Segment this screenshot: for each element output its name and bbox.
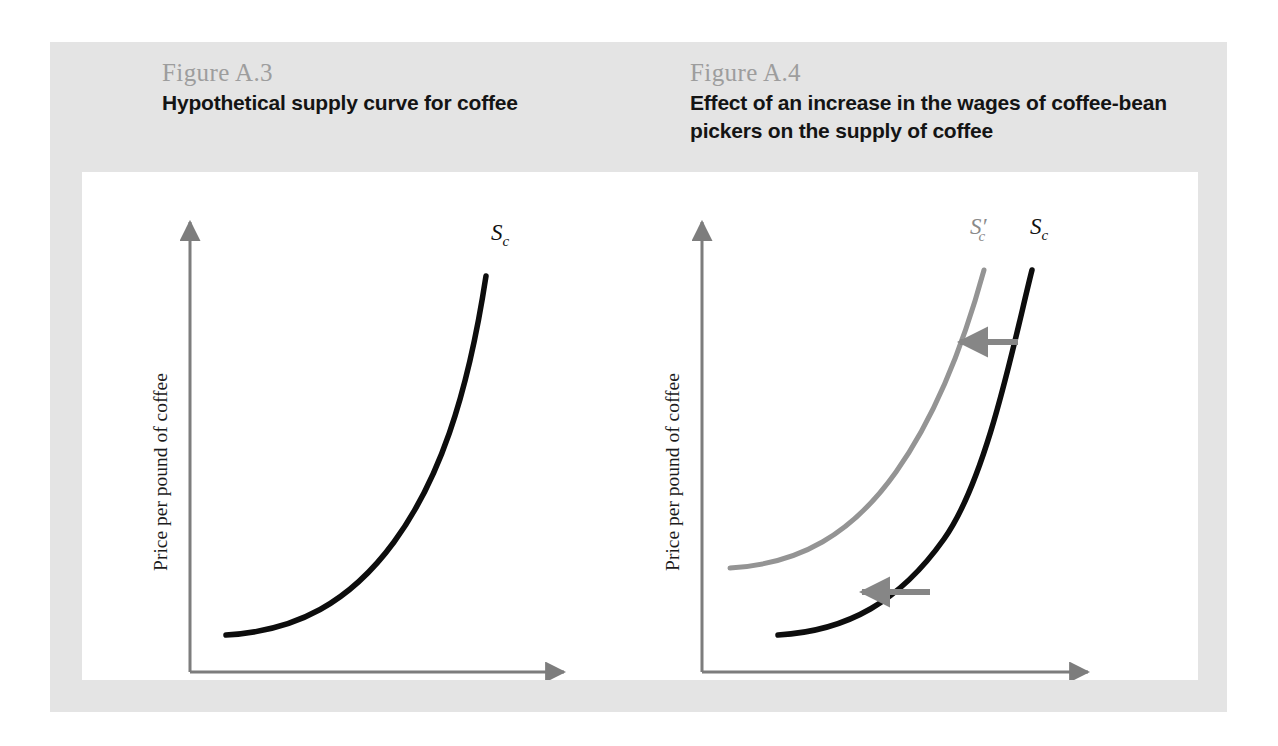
figure-headings: Figure A.3 Hypothetical supply curve for… xyxy=(50,42,1227,172)
chart-figure-a3: Sc Price per pound of coffee Pounds of c… xyxy=(82,172,640,680)
figure-page: Figure A.3 Hypothetical supply curve for… xyxy=(0,0,1278,746)
figure-title-a4: Effect of an increase in the wages of co… xyxy=(690,89,1210,144)
figure-number-a3: Figure A.3 xyxy=(162,60,582,86)
figure-number-a4: Figure A.4 xyxy=(690,60,1210,86)
curve-label-sc: Sc xyxy=(491,220,510,249)
supply-curve-sc xyxy=(226,276,486,635)
y-axis-label: Price per pound of coffee xyxy=(150,373,171,571)
plot-card: Sc Price per pound of coffee Pounds of c… xyxy=(82,172,1198,680)
figure-heading-a3: Figure A.3 Hypothetical supply curve for… xyxy=(162,60,582,117)
figure-heading-a4: Figure A.4 Effect of an increase in the … xyxy=(690,60,1210,144)
supply-curve-sc-prime xyxy=(730,270,984,568)
chart-a4-svg: S′c Sc Price per pound of coffee Pounds … xyxy=(640,172,1198,680)
y-axis-label: Price per pound of coffee xyxy=(662,373,683,571)
curve-label-sc-a4: Sc xyxy=(1030,214,1049,243)
supply-curve-sc xyxy=(778,270,1032,635)
figure-panel: Figure A.3 Hypothetical supply curve for… xyxy=(50,42,1227,712)
chart-a3-svg: Sc Price per pound of coffee Pounds of c… xyxy=(82,172,640,680)
curve-label-sc-prime: S′c xyxy=(970,214,988,244)
figure-title-a3: Hypothetical supply curve for coffee xyxy=(162,89,582,116)
chart-figure-a4: S′c Sc Price per pound of coffee Pounds … xyxy=(640,172,1198,680)
